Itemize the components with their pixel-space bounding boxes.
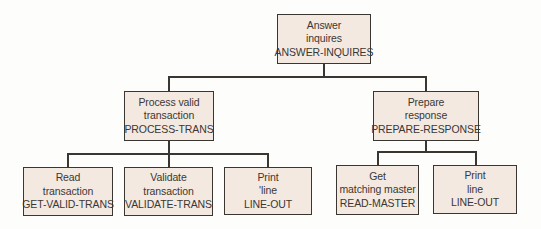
module-read-master: Get matching master READ-MASTER <box>336 165 419 215</box>
module-name: GET-VALID-TRANS <box>22 198 114 212</box>
module-prepare-response: Prepare response PREPARE-RESPONSE <box>373 91 479 141</box>
module-label-line2: transaction <box>144 109 194 123</box>
module-get-valid-trans: Read transaction GET-VALID-TRANS <box>23 167 113 216</box>
connector-root-down <box>323 63 325 77</box>
module-name: PROCESS-TRANS <box>124 123 213 137</box>
module-label-line2: inquires <box>306 32 342 46</box>
connector-to-validate-trans <box>168 153 170 167</box>
module-label-line2: matching master <box>339 183 415 197</box>
module-label-line2: transaction <box>143 185 193 199</box>
module-label-line1: Print <box>464 169 485 183</box>
module-label-line1: Read <box>56 171 81 185</box>
module-label-line2: response <box>405 109 447 123</box>
module-name: PREPARE-RESPONSE <box>371 123 481 137</box>
module-label-line2: line <box>467 183 483 197</box>
module-name: READ-MASTER <box>340 197 415 211</box>
connector-to-process-trans <box>168 76 170 91</box>
connector-to-line-out-right <box>475 151 477 165</box>
module-label-line1: Print <box>257 171 278 185</box>
module-label-line1: Prepare <box>408 96 445 110</box>
module-answer-inquires: Answer inquires ANSWER-INQUIRES <box>277 14 371 64</box>
module-process-trans: Process valid transaction PROCESS-TRANS <box>124 91 214 141</box>
connector-to-prepare-response <box>425 76 427 91</box>
connector-level2-bar <box>168 76 426 78</box>
module-label-line2: transaction <box>43 185 93 199</box>
module-line-out-left: Print 'line LINE-OUT <box>224 167 312 215</box>
module-name: LINE-OUT <box>244 198 292 212</box>
module-label-line1: Process valid <box>138 96 199 110</box>
module-name: ANSWER-INQUIRES <box>275 46 374 60</box>
connector-to-line-out-left <box>267 153 269 167</box>
module-name: VALIDATE-TRANS <box>125 198 212 212</box>
module-validate-trans: Validate transaction VALIDATE-TRANS <box>124 167 213 216</box>
module-label-line2: 'line <box>259 184 277 198</box>
structure-chart: Answer inquires ANSWER-INQUIRES Process … <box>0 0 541 229</box>
module-label-line1: Get <box>369 170 386 184</box>
module-line-out-right: Print line LINE-OUT <box>433 165 517 214</box>
connector-process-trans-down <box>168 140 170 154</box>
module-name: LINE-OUT <box>451 196 499 210</box>
module-label-line1: Answer <box>307 19 341 33</box>
connector-to-get-valid-trans <box>67 153 69 167</box>
connector-to-read-master <box>377 151 379 165</box>
connector-right-children-bar <box>377 151 476 153</box>
module-label-line1: Validate <box>150 171 186 185</box>
